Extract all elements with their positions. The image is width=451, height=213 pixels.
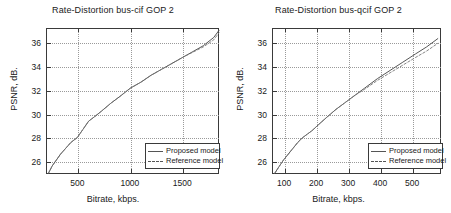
legend: Proposed model Reference model	[145, 143, 220, 169]
legend-line-dashed-icon	[148, 161, 163, 162]
legend-line-dashed-icon	[371, 161, 386, 162]
legend-line-solid-icon	[148, 151, 163, 152]
chart-title: Rate-Distortion bus-qcif GOP 2	[226, 5, 451, 15]
x-tick-label: 1000	[120, 178, 139, 188]
plot-area-wrapper: 26283032343650010001500 Proposed model R…	[46, 28, 219, 174]
figure-bus-cif: Rate-Distortion bus-cif GOP 2 PSNR, dB. …	[0, 0, 226, 213]
legend-label-proposed: Proposed model	[166, 146, 221, 156]
x-tick-label: 500	[405, 178, 419, 188]
legend-item-reference: Reference model	[371, 156, 439, 166]
y-tick-label: 34	[258, 62, 267, 72]
y-tick-label: 32	[258, 86, 267, 96]
figure-page: Rate-Distortion bus-cif GOP 2 PSNR, dB. …	[0, 0, 451, 213]
y-tick-label: 30	[32, 110, 41, 120]
y-tick-label: 36	[32, 38, 41, 48]
legend-item-reference: Reference model	[148, 156, 216, 166]
x-tick-label: 100	[277, 178, 291, 188]
legend-label-reference: Reference model	[389, 156, 446, 166]
legend-label-reference: Reference model	[166, 156, 223, 166]
x-tick-label: 200	[309, 178, 323, 188]
chart-title: Rate-Distortion bus-cif GOP 2	[0, 5, 226, 15]
x-tick-label: 300	[341, 178, 355, 188]
legend-item-proposed: Proposed model	[371, 146, 439, 156]
y-tick-label: 34	[32, 62, 41, 72]
y-axis-label: PSNR, dB.	[235, 59, 245, 119]
figure-bus-qcif: Rate-Distortion bus-qcif GOP 2 PSNR, dB.…	[226, 0, 451, 213]
x-axis-label: Bitrate, kbps.	[226, 194, 451, 204]
x-tick-label: 400	[373, 178, 387, 188]
legend-label-proposed: Proposed model	[389, 146, 444, 156]
y-tick-label: 32	[32, 86, 41, 96]
x-tick-label: 1500	[173, 178, 192, 188]
y-tick-label: 26	[32, 157, 41, 167]
y-tick-label: 30	[258, 110, 267, 120]
x-axis-label: Bitrate, kbps.	[0, 194, 226, 204]
x-tick-label: 500	[70, 178, 84, 188]
plot-area-wrapper: 262830323436100200300400500 Proposed mod…	[272, 28, 441, 174]
y-tick-label: 26	[258, 157, 267, 167]
y-tick-label: 36	[258, 38, 267, 48]
y-tick-label: 28	[32, 133, 41, 143]
legend-line-solid-icon	[371, 151, 386, 152]
y-tick-label: 28	[258, 133, 267, 143]
y-axis-label: PSNR, dB.	[9, 59, 19, 119]
legend-item-proposed: Proposed model	[148, 146, 216, 156]
legend: Proposed model Reference model	[368, 143, 443, 169]
